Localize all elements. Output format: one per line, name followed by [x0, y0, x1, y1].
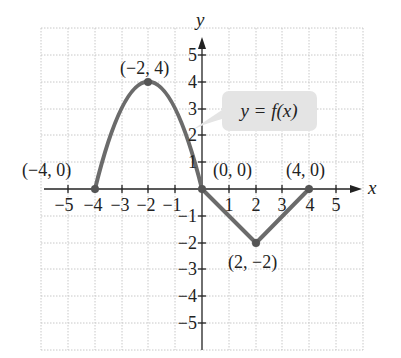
x-axis-label: x [367, 177, 377, 198]
y-tick-label: 5 [188, 45, 197, 65]
y-axis-arrow-icon [198, 37, 206, 49]
x-tick-label: 2 [252, 195, 261, 215]
point-label-2-m2: (2, −2) [228, 252, 277, 273]
y-tick-label: 3 [188, 99, 197, 119]
axes [44, 37, 362, 350]
function-callout: y = f(x) [192, 91, 317, 131]
function-graph: y = f(x) y x (−4, 0) (−2, 4) (0, 0) (4, … [0, 0, 401, 358]
point-label-4-0: (4, 0) [286, 160, 325, 181]
x-tick-label: −3 [110, 195, 129, 215]
point-label-m2-4: (−2, 4) [120, 58, 169, 79]
x-tick-label: 3 [278, 195, 287, 215]
point-label-m4-0: (−4, 0) [22, 160, 71, 181]
callout-label: y = f(x) [238, 100, 297, 122]
point-label-0-0: (0, 0) [213, 160, 252, 181]
y-tick-label: −5 [178, 313, 197, 333]
y-tick-label: 2 [188, 125, 197, 145]
x-tick-label: −4 [83, 195, 102, 215]
y-tick-label: −4 [178, 286, 197, 306]
y-tick-label: −2 [178, 233, 197, 253]
y-tick-label: 4 [188, 72, 197, 92]
x-tick-label: 1 [225, 195, 234, 215]
y-tick-label: −1 [178, 206, 197, 226]
x-tick-label: −5 [54, 195, 73, 215]
x-tick-label: 5 [332, 195, 341, 215]
x-tick-label: 4 [306, 195, 315, 215]
y-tick-label: 1 [188, 152, 197, 172]
y-tick-label: −3 [178, 259, 197, 279]
y-axis-label: y [194, 9, 205, 30]
x-axis-arrow-icon [350, 185, 362, 193]
x-tick-label: −2 [136, 195, 155, 215]
